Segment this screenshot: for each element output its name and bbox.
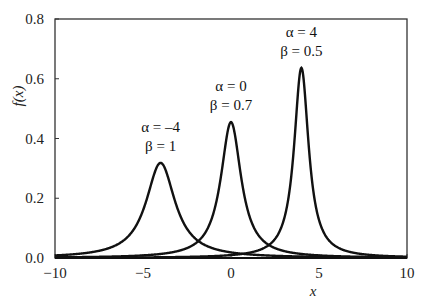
annotation-alpha: α = 4: [286, 24, 318, 40]
density-curve: [55, 163, 407, 258]
y-tick-label: 0.8: [25, 11, 44, 27]
y-tick-label: 0.0: [25, 250, 44, 266]
x-tick-label: −10: [43, 265, 66, 281]
y-tick-label: 0.6: [25, 71, 44, 87]
y-axis-ticks: 0.00.20.40.60.8: [25, 11, 59, 266]
annotation-alpha: α = –4: [141, 119, 180, 135]
x-axis-label: x: [309, 283, 317, 299]
annotation-beta: β = 1: [145, 138, 176, 154]
y-tick-label: 0.4: [25, 131, 44, 147]
y-axis-label: f(x): [10, 86, 27, 107]
annotation-beta: β = 0.5: [280, 43, 322, 59]
y-tick-label: 0.2: [25, 190, 44, 206]
plot-frame: [55, 19, 407, 258]
density-curve: [55, 122, 407, 257]
x-tick-label: −5: [135, 265, 151, 281]
x-tick-label: 10: [400, 265, 415, 281]
annotation-alpha: α = 0: [215, 78, 246, 94]
x-tick-label: 5: [315, 265, 323, 281]
annotation-beta: β = 0.7: [210, 97, 253, 113]
x-tick-label: 0: [227, 265, 235, 281]
cauchy-density-chart: 0.00.20.40.60.8 −10−50510 α = –4β = 1α =…: [0, 0, 427, 307]
